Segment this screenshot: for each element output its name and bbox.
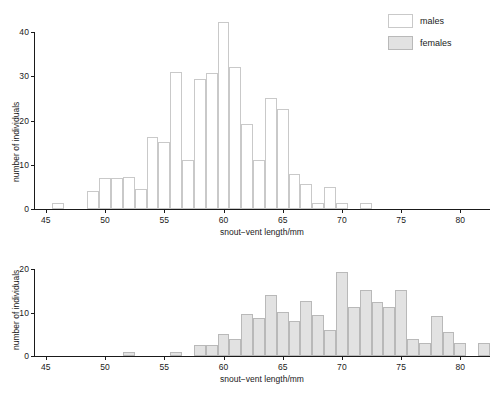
x-axis-tick-label: 60: [219, 215, 229, 225]
x-axis-tick: [224, 357, 225, 360]
histogram-bar: [135, 189, 147, 209]
chart-panel-females: 010204550556065707580snout−vent length/m…: [0, 235, 502, 395]
x-axis-line: [34, 356, 490, 357]
histogram-bar: [206, 73, 218, 209]
histogram-bar: [419, 343, 431, 356]
legend-swatch-males-icon: [388, 14, 413, 28]
x-axis-tick: [401, 210, 402, 213]
x-axis-tick-label: 80: [456, 215, 466, 225]
histogram-bar: [277, 312, 289, 356]
y-axis-title: number of individuals: [11, 102, 21, 182]
legend-label: males: [420, 16, 444, 26]
legend-item-males[interactable]: males: [388, 14, 444, 28]
histogram-bar: [123, 177, 135, 209]
x-axis-tick: [164, 357, 165, 360]
histogram-bar: [194, 345, 206, 356]
histogram-bar: [111, 178, 123, 209]
histogram-bar: [52, 203, 64, 209]
y-axis-title: number of individuals: [11, 270, 21, 350]
x-axis-tick: [460, 210, 461, 213]
x-axis-tick-label: 55: [159, 215, 169, 225]
histogram-bar: [265, 295, 277, 356]
histogram-bar: [336, 272, 348, 356]
y-axis-tick: [31, 313, 34, 314]
y-axis-tick: [31, 76, 34, 77]
x-axis-tick: [401, 357, 402, 360]
x-axis-tick-label: 65: [278, 215, 288, 225]
legend-swatch-females-icon: [388, 36, 413, 50]
x-axis-tick-label: 75: [396, 215, 406, 225]
histogram-bar: [123, 352, 135, 356]
histogram-bar: [241, 314, 253, 356]
x-axis-tick: [46, 357, 47, 360]
x-axis-tick-label: 50: [100, 362, 110, 372]
histogram-bar: [324, 330, 336, 356]
histogram-bar: [253, 318, 265, 356]
histogram-bar: [170, 352, 182, 356]
x-axis-tick: [105, 210, 106, 213]
x-axis-tick-label: 75: [396, 362, 406, 372]
legend-label: females: [420, 38, 452, 48]
x-axis-tick: [342, 210, 343, 213]
x-axis-tick-label: 80: [456, 362, 466, 372]
x-axis-tick-label: 65: [278, 362, 288, 372]
y-axis-tick: [31, 269, 34, 270]
x-axis-tick: [283, 210, 284, 213]
histogram-bar: [324, 187, 336, 209]
y-axis-line: [34, 269, 35, 357]
chart-panel-males: 0102030404550556065707580snout−vent leng…: [0, 0, 502, 235]
x-axis-line: [34, 209, 490, 210]
histogram-bar: [182, 160, 194, 209]
histogram-bar: [336, 203, 348, 209]
histogram-bar: [265, 98, 277, 209]
x-axis-tick-label: 45: [41, 215, 51, 225]
y-axis-tick-label: 0: [4, 204, 29, 214]
x-axis-tick: [224, 210, 225, 213]
histogram-bar: [194, 79, 206, 209]
y-axis-tick: [31, 165, 34, 166]
histogram-bar: [431, 316, 443, 356]
x-axis-tick-label: 50: [100, 215, 110, 225]
histogram-bar: [87, 191, 99, 209]
histogram-bar: [277, 109, 289, 209]
histogram-bar: [241, 124, 253, 209]
y-axis-tick: [31, 121, 34, 122]
y-axis-tick-label: 0: [4, 351, 29, 361]
y-axis-tick-label: 30: [4, 71, 29, 81]
x-axis-tick: [342, 357, 343, 360]
x-axis-title: snout−vent length/mm: [220, 374, 304, 384]
histogram-bar: [218, 334, 230, 356]
histogram-bar: [312, 203, 324, 209]
histogram-bar: [206, 345, 218, 356]
histogram-bar: [300, 301, 312, 356]
histogram-bar: [348, 307, 360, 356]
histogram-bar: [300, 184, 312, 209]
histogram-bar: [443, 332, 455, 356]
x-axis-tick-label: 70: [337, 362, 347, 372]
histogram-bar: [289, 321, 301, 356]
histogram-bar: [253, 160, 265, 209]
x-axis-tick: [283, 357, 284, 360]
legend-item-females[interactable]: females: [388, 36, 452, 50]
x-axis-tick-label: 45: [41, 362, 51, 372]
histogram-bar: [229, 67, 241, 209]
y-axis-tick: [31, 209, 34, 210]
histogram-bar: [478, 343, 490, 356]
x-axis-tick: [460, 357, 461, 360]
plot-area-females: 010204550556065707580snout−vent length/m…: [0, 235, 502, 395]
x-axis-tick: [46, 210, 47, 213]
histogram-bar: [99, 178, 111, 209]
histogram-bar: [360, 290, 372, 356]
histogram-bar: [312, 315, 324, 356]
histogram-bar: [454, 343, 466, 356]
histogram-bar: [407, 339, 419, 356]
histogram-bar: [158, 142, 170, 209]
chart-legend: malesfemales: [0, 0, 502, 60]
histogram-bar: [383, 307, 395, 356]
histogram-bar: [360, 203, 372, 209]
x-axis-tick: [164, 210, 165, 213]
y-axis-tick: [31, 356, 34, 357]
histogram-bar: [229, 339, 241, 356]
histogram-bar: [289, 174, 301, 209]
histogram-bar: [395, 290, 407, 356]
